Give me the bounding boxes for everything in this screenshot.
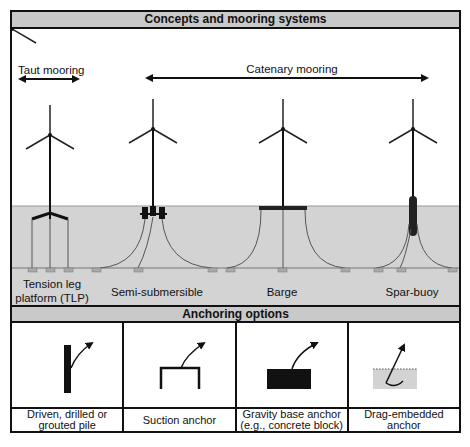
diagram-frame: Concepts and mooring systems (10, 10, 461, 433)
suction-anchor-icon (124, 323, 234, 407)
catenary-mooring-label: Catenary mooring (232, 62, 352, 76)
anchoring-options: Driven, drilled orgrouted pile Suction a… (12, 323, 459, 431)
taut-mooring-label: Taut mooring (18, 63, 84, 77)
tlp-label: Tension leg platform (TLP) (12, 277, 92, 305)
pile-anchor-icon (12, 323, 122, 407)
gravity-anchor-icon (237, 323, 347, 407)
anchor-option-drag: Drag-embeddedanchor (349, 323, 459, 431)
anchoring-header: Anchoring options (12, 305, 459, 323)
spar-buoy-label: Spar-buoy (372, 285, 452, 299)
anchor-option-gravity: Gravity base anchor(e.g., concrete block… (237, 323, 349, 431)
mooring-scene: Taut mooring Catenary mooring Tension le… (12, 29, 459, 305)
concepts-header: Concepts and mooring systems (12, 12, 459, 29)
barge-label: Barge (252, 285, 312, 299)
semi-submersible-label: Semi-submersible (107, 285, 207, 299)
drag-embedded-anchor-icon (349, 323, 459, 407)
anchor-option-pile: Driven, drilled orgrouted pile (12, 323, 124, 431)
anchor-option-suction: Suction anchor (124, 323, 236, 431)
